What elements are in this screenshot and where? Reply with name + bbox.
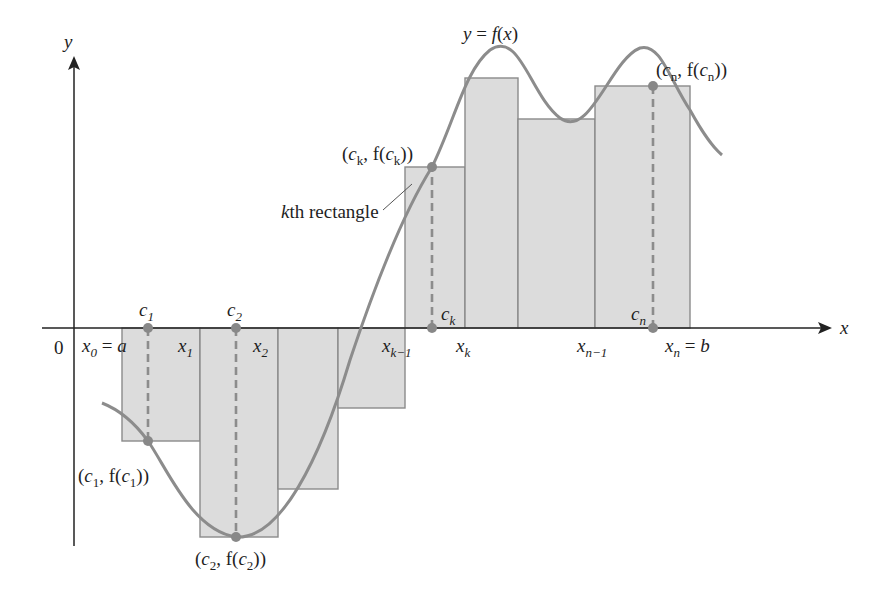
rectangle-6 (465, 78, 518, 328)
x0-label: x0 = a (81, 335, 127, 360)
kth-rectangle-label: kth rectangle (281, 201, 379, 222)
point-c1-axis (143, 323, 153, 333)
rectangle-7 (518, 119, 595, 328)
curve-label: y = f(x) (461, 23, 518, 45)
point-c2-f (231, 532, 241, 542)
origin-label: 0 (54, 337, 64, 358)
point-c2-axis (231, 323, 241, 333)
point-cn-axis (648, 323, 658, 333)
rectangle-n (595, 86, 690, 328)
rectangle-k (405, 167, 465, 328)
c2-point-label: (c2, f(c2)) (195, 548, 266, 573)
c2-label: c2 (227, 299, 242, 324)
c1-point-label: (c1, f(c1)) (78, 465, 149, 490)
xn-label: xn = b (664, 335, 710, 360)
xk-label: xk (455, 335, 470, 360)
y-axis-label: y (62, 31, 73, 52)
rectangle-3 (278, 328, 338, 489)
point-ck-axis (427, 323, 437, 333)
ck-point-label: (ck, f(ck)) (342, 143, 413, 168)
c1-label: c1 (139, 299, 154, 324)
cn-point-label: (cn, f(cn)) (656, 59, 727, 84)
xn-minus-1-label: xn−1 (576, 335, 607, 360)
point-c1-f (143, 436, 153, 446)
point-ck-f (427, 162, 437, 172)
point-cn-f (648, 81, 658, 91)
riemann-sum-diagram: y x 0 y = f(x) c1 c2 ck cn x0 = a x1 x2 … (0, 0, 883, 593)
x-axis-label: x (839, 317, 849, 338)
